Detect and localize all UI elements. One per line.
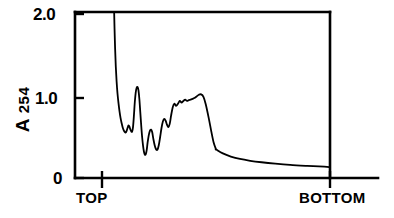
chart-figure: 2.0 1.0 0 TOP BOTTOM A 254 xyxy=(0,0,394,218)
x-tick-label-top: TOP xyxy=(76,190,107,205)
x-axis-ticks xyxy=(102,171,330,188)
axis-frame xyxy=(75,12,378,178)
y-axis-title-text: A 254 xyxy=(13,52,32,168)
y-tick-label-2: 2.0 xyxy=(33,6,55,23)
x-tick-label-bottom: BOTTOM xyxy=(299,190,366,205)
y-tick-label-0: 0 xyxy=(53,170,62,187)
y-axis-title-subscript: 254 xyxy=(15,87,32,114)
y-axis-ticks xyxy=(75,14,84,178)
data-line-a254 xyxy=(114,12,330,167)
y-axis-title: A 254 xyxy=(0,52,40,172)
y-axis-title-main: A xyxy=(12,119,33,133)
